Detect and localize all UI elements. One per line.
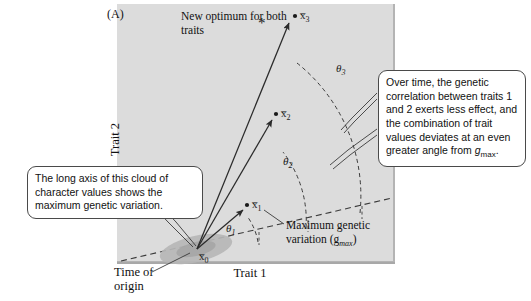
new-optimum-label: New optimum for both traits: [181, 10, 287, 37]
callout-right-gmax-sub: max: [481, 150, 496, 159]
panel-label: (A): [107, 7, 124, 22]
angle-arcs: [247, 63, 361, 242]
max-genetic-variation-leader: [264, 210, 284, 224]
time-of-origin-label: Time of origin: [114, 265, 184, 294]
evolution-vector-arrows: [197, 23, 289, 249]
label-theta3: θ3: [336, 62, 345, 77]
label-x2: x̅2: [281, 107, 291, 122]
y-axis-label: Trait 2: [108, 110, 123, 170]
callout-right-period: .: [496, 144, 499, 156]
x-axis-label: Trait 1: [205, 266, 295, 281]
point-x2: [274, 112, 278, 116]
point-x3: [293, 14, 297, 18]
label-x3: x̅3: [300, 9, 310, 24]
label-x0: x̅0: [199, 250, 209, 265]
point-x1: [245, 203, 249, 207]
gmax-paren: ): [353, 233, 357, 245]
label-theta2: θ2: [283, 155, 292, 170]
figure-panel-a: * (A) Trait 1 Trait 2 New optimum for bo…: [0, 0, 531, 301]
gmax-subscript: max: [339, 239, 352, 248]
callout-right: Over time, the genetic correlation betwe…: [378, 70, 526, 167]
max-genetic-variation-text: Maximum genetic variation (g: [286, 219, 370, 245]
right-callout-leader: [330, 93, 377, 169]
label-theta1: θ1: [226, 222, 235, 237]
label-x1: x̅1: [252, 198, 262, 213]
callout-left: The long axis of this cloud of character…: [27, 166, 203, 219]
max-genetic-variation-label: Maximum genetic variation (gmax): [286, 219, 394, 248]
